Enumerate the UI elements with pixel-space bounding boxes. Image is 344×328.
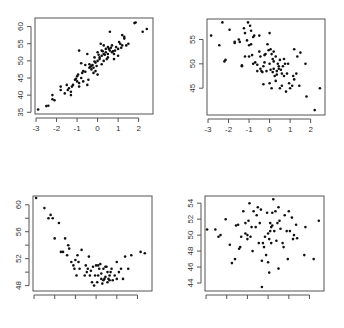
data-point	[234, 258, 237, 261]
data-point	[298, 85, 301, 88]
data-point	[252, 210, 255, 213]
data-point	[117, 48, 120, 51]
data-point	[291, 216, 294, 219]
data-point	[81, 72, 84, 75]
data-point	[86, 271, 89, 274]
data-point	[53, 99, 56, 102]
data-point	[275, 239, 278, 242]
data-point	[91, 281, 94, 284]
data-point	[281, 242, 284, 245]
data-point	[80, 249, 83, 252]
data-point	[86, 53, 89, 56]
data-point	[75, 77, 78, 80]
scatter-panel-4: 444648505254	[186, 196, 324, 299]
data-point	[272, 198, 275, 201]
scatter-plot-grid: -3-2-1012354045505560 -3-2-1012455055 48…	[0, 0, 344, 328]
data-point	[256, 70, 259, 73]
data-point	[286, 72, 289, 75]
data-point	[64, 92, 67, 95]
y-tick-label: 45	[16, 73, 25, 82]
data-point	[238, 38, 241, 41]
data-point	[70, 261, 73, 264]
data-point	[274, 80, 277, 83]
data-point	[319, 87, 322, 90]
data-point	[92, 72, 95, 75]
scatter-panel-1: -3-2-1012354045505560	[16, 18, 153, 133]
data-point	[78, 85, 81, 88]
data-point	[260, 208, 263, 211]
data-point	[246, 238, 249, 241]
data-point	[113, 274, 116, 277]
data-point	[269, 48, 272, 51]
data-point	[313, 109, 316, 112]
data-point	[293, 48, 296, 51]
data-point	[97, 264, 100, 267]
data-point	[109, 30, 112, 33]
data-point	[259, 67, 262, 70]
data-point	[92, 66, 95, 69]
data-point	[96, 51, 99, 54]
y-tick-label: 35	[16, 107, 25, 116]
x-tick-label: -3	[32, 124, 40, 133]
data-point	[43, 207, 46, 210]
data-point	[262, 65, 265, 68]
data-point	[270, 87, 273, 90]
data-point	[276, 222, 279, 225]
data-point	[296, 55, 299, 58]
data-point	[253, 34, 256, 37]
data-point	[244, 222, 247, 225]
data-point	[127, 268, 130, 271]
y-tick-label: 48	[186, 246, 195, 255]
y-tick-label: 45	[188, 83, 197, 92]
data-point	[113, 53, 116, 56]
x-tick-label: 1	[116, 124, 121, 133]
data-point	[121, 34, 124, 37]
data-point	[291, 85, 294, 88]
y-tick-label: 46	[186, 262, 195, 271]
y-tick-label: 55	[16, 39, 25, 48]
data-point	[299, 51, 302, 54]
data-point	[130, 254, 133, 257]
data-point	[271, 58, 274, 61]
data-point	[94, 274, 97, 277]
data-point	[249, 25, 252, 28]
data-point	[78, 268, 81, 271]
data-point	[224, 59, 227, 62]
data-point	[293, 234, 296, 237]
data-point	[93, 284, 96, 287]
data-point	[244, 55, 247, 58]
data-point	[237, 223, 240, 226]
data-point	[96, 73, 99, 76]
data-point	[292, 238, 295, 241]
data-point	[263, 61, 266, 64]
data-point	[288, 210, 291, 213]
data-point	[67, 89, 70, 92]
data-point	[77, 73, 80, 76]
y-tick-label: 48	[14, 281, 23, 290]
data-point	[106, 58, 109, 61]
data-point	[102, 268, 105, 271]
data-point	[276, 73, 279, 76]
data-point	[233, 41, 236, 44]
x-tick-label: 2	[136, 124, 141, 133]
data-point	[274, 55, 277, 58]
data-point	[105, 48, 108, 51]
data-point	[71, 85, 74, 88]
data-point	[82, 80, 85, 83]
data-point	[261, 286, 264, 289]
data-point	[210, 34, 213, 37]
data-point	[97, 274, 100, 277]
data-point	[116, 261, 119, 264]
data-point	[248, 202, 251, 205]
data-point	[108, 274, 111, 277]
data-point	[117, 54, 120, 57]
data-point	[35, 197, 38, 200]
data-point	[277, 206, 280, 209]
data-point	[88, 255, 91, 258]
data-point	[303, 254, 306, 257]
x-tick-label: -2	[53, 124, 61, 133]
data-point	[80, 62, 83, 65]
data-point	[91, 64, 94, 67]
x-tick-label: -1	[246, 125, 254, 134]
data-point	[98, 268, 101, 271]
